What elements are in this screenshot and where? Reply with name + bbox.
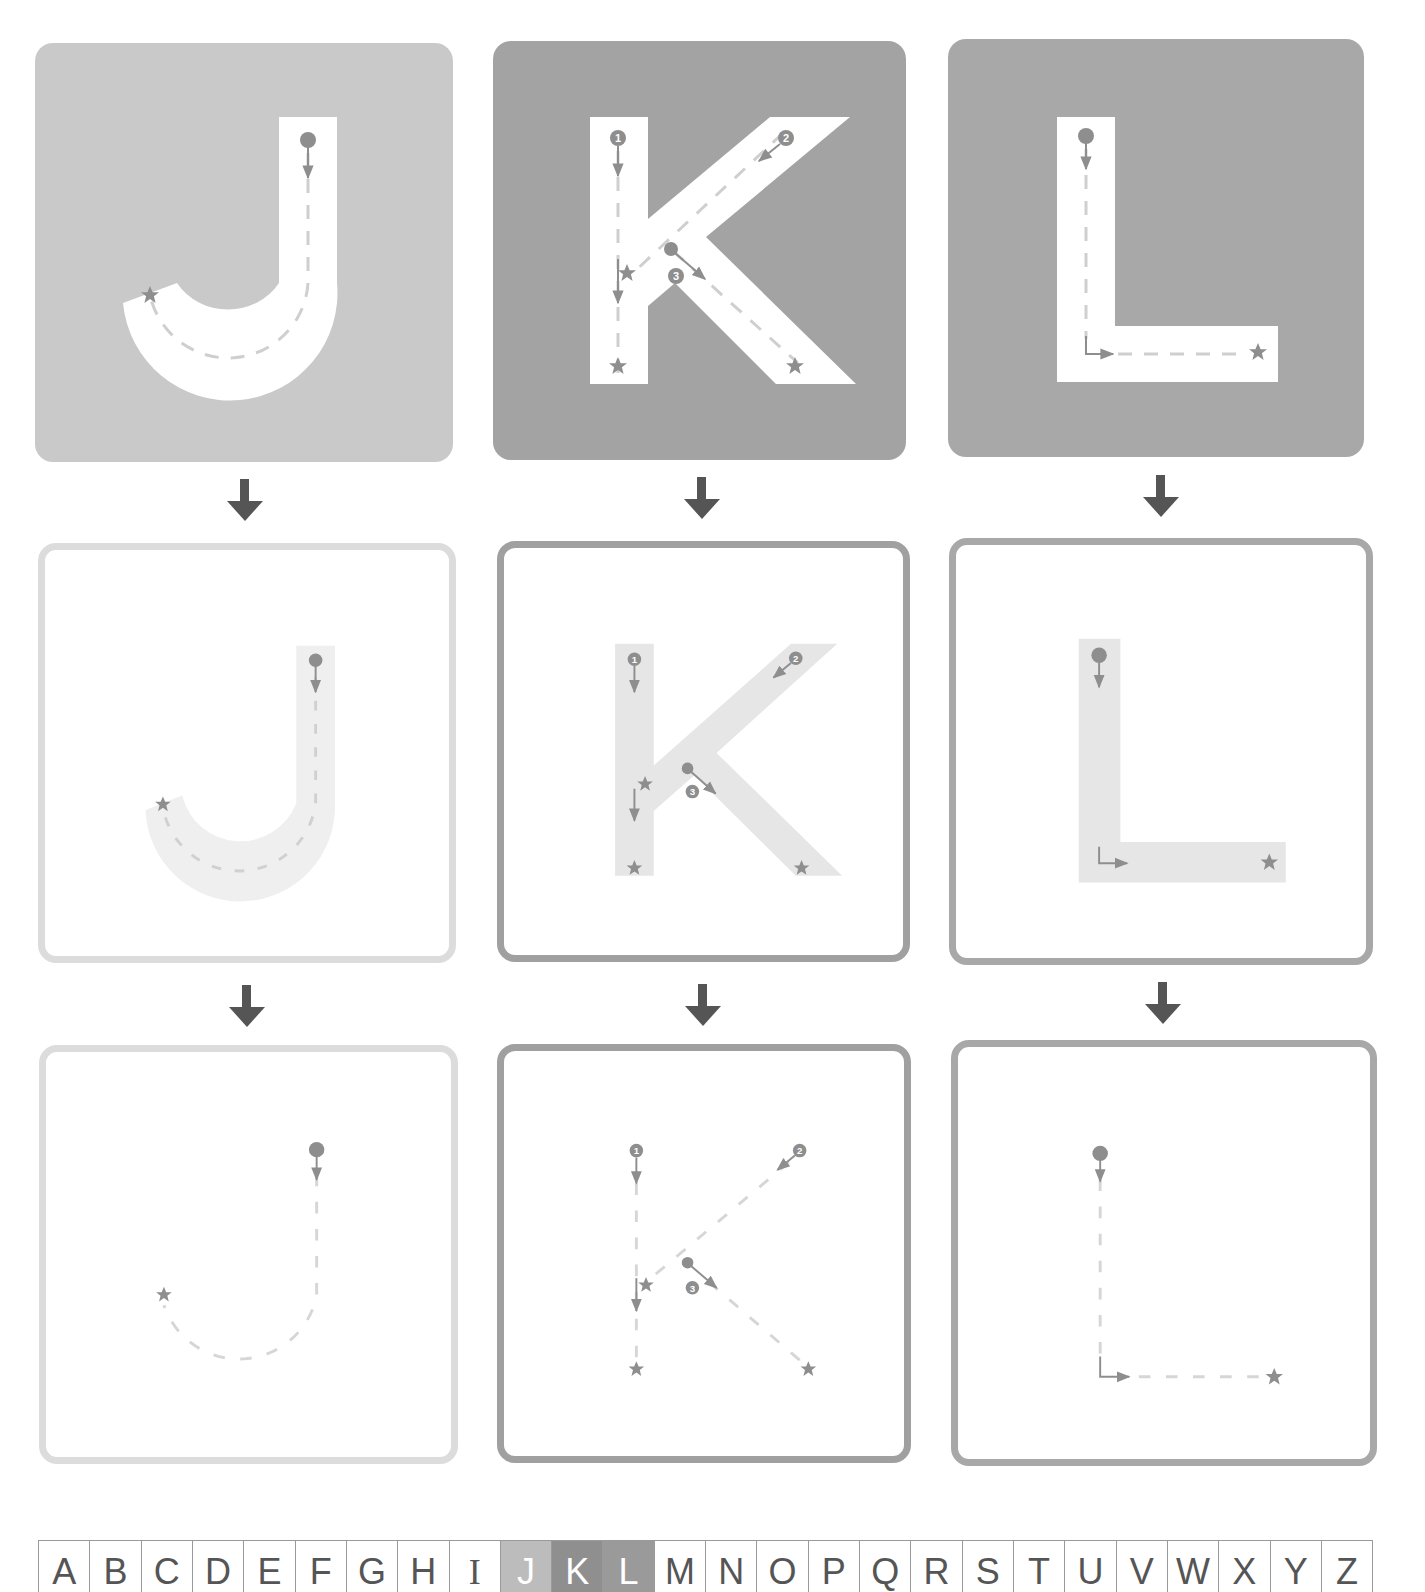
alphabet-letter-u[interactable]: U <box>1065 1541 1116 1592</box>
alphabet-letter-r[interactable]: R <box>911 1541 962 1592</box>
letter-k-path: 1 2 3 <box>504 1051 904 1456</box>
panel-k-faded[interactable]: 1 2 3 <box>497 541 910 962</box>
panel-j-faded[interactable] <box>38 543 456 963</box>
letter-l-path <box>958 1047 1370 1459</box>
svg-text:3: 3 <box>690 1283 696 1294</box>
end-star-icon <box>629 1361 645 1376</box>
alphabet-letter-p[interactable]: P <box>809 1541 860 1592</box>
svg-text:3: 3 <box>690 786 696 797</box>
letter-j-shape <box>35 43 453 462</box>
alphabet-letter-g[interactable]: G <box>347 1541 398 1592</box>
alphabet-letter-y[interactable]: Y <box>1271 1541 1322 1592</box>
alphabet-letter-n[interactable]: N <box>706 1541 757 1592</box>
stroke-3-marker-icon: 3 <box>682 1257 717 1295</box>
alphabet-letter-e[interactable]: E <box>244 1541 295 1592</box>
letter-j-ghost <box>45 550 449 956</box>
alphabet-letter-i[interactable]: I <box>450 1541 501 1592</box>
alphabet-letter-o[interactable]: O <box>757 1541 808 1592</box>
letter-j-path <box>46 1052 451 1457</box>
panel-j-trace[interactable] <box>39 1045 458 1464</box>
svg-text:1: 1 <box>615 132 621 144</box>
svg-text:2: 2 <box>793 653 798 664</box>
end-star-icon <box>638 1277 654 1292</box>
down-arrow-icon <box>1141 475 1181 519</box>
alphabet-letter-w[interactable]: W <box>1168 1541 1219 1592</box>
alphabet-letter-q[interactable]: Q <box>860 1541 911 1592</box>
alphabet-letter-k-active[interactable]: K <box>552 1541 603 1592</box>
alphabet-letter-l-active[interactable]: L <box>603 1541 654 1592</box>
alphabet-letter-d[interactable]: D <box>193 1541 244 1592</box>
alphabet-letter-s[interactable]: S <box>963 1541 1014 1592</box>
down-arrow-icon <box>227 985 267 1029</box>
alphabet-letter-c[interactable]: C <box>142 1541 193 1592</box>
letter-l-shape <box>948 39 1364 457</box>
end-star-icon <box>801 1361 817 1376</box>
alphabet-letter-t[interactable]: T <box>1014 1541 1065 1592</box>
down-arrow-icon <box>225 479 265 523</box>
letter-k-ghost: 1 2 3 <box>504 548 903 955</box>
svg-text:3: 3 <box>673 270 679 282</box>
panel-l-filled <box>948 39 1364 457</box>
alphabet-letter-j-active[interactable]: J <box>501 1541 552 1592</box>
alphabet-letter-m[interactable]: M <box>655 1541 706 1592</box>
svg-text:2: 2 <box>783 132 789 144</box>
down-arrow-icon <box>682 477 722 521</box>
alphabet-letter-b[interactable]: B <box>90 1541 141 1592</box>
svg-text:1: 1 <box>632 654 638 665</box>
alphabet-letter-z[interactable]: Z <box>1322 1541 1373 1592</box>
alphabet-strip: A B C D E F G H I J K L M N O P Q R S T … <box>38 1540 1373 1592</box>
panel-l-faded[interactable] <box>949 538 1373 965</box>
svg-text:2: 2 <box>797 1145 802 1156</box>
end-star-icon <box>1266 1368 1283 1384</box>
alphabet-letter-h[interactable]: H <box>398 1541 449 1592</box>
letter-k-shape: 1 2 3 <box>493 41 906 460</box>
panel-j-filled <box>35 43 453 462</box>
alphabet-letter-v[interactable]: V <box>1117 1541 1168 1592</box>
alphabet-letter-x[interactable]: X <box>1219 1541 1270 1592</box>
panel-k-filled: 1 2 3 <box>493 41 906 460</box>
end-star-icon <box>156 1287 172 1302</box>
svg-text:1: 1 <box>634 1145 640 1156</box>
panel-l-trace[interactable] <box>951 1040 1377 1466</box>
panel-k-trace[interactable]: 1 2 3 <box>497 1044 911 1463</box>
stroke-2-marker-icon: 2 <box>777 1144 806 1170</box>
down-arrow-icon <box>1143 982 1183 1026</box>
letter-l-ghost <box>956 545 1366 958</box>
stroke-1-marker-icon: 1 <box>630 1144 644 1184</box>
start-dot-icon <box>1092 1146 1107 1182</box>
start-dot-icon <box>309 1142 324 1180</box>
alphabet-letter-a[interactable]: A <box>39 1541 90 1592</box>
down-arrow-icon <box>683 984 723 1028</box>
alphabet-letter-f[interactable]: F <box>296 1541 347 1592</box>
